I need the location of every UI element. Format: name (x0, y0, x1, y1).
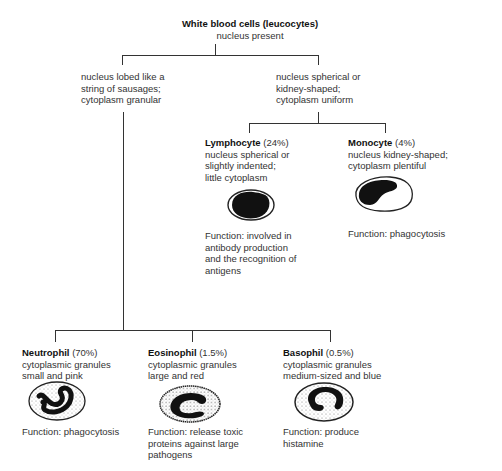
monocyte-name: Monocyte (348, 137, 392, 148)
neutrophil-function-line: Function: phagocytosis (22, 426, 119, 438)
connector-granular-bar (55, 330, 331, 331)
root-title: White blood cells (leucocytes) (182, 18, 318, 29)
neutrophil-percent: (70%) (72, 347, 97, 358)
eosinophil-desc: large and red (148, 370, 237, 382)
lymphocyte-function-line: antigens (205, 265, 296, 277)
root-node: White blood cells (leucocytes) nucleus p… (150, 18, 350, 41)
connector-root-bar (122, 55, 319, 56)
branch-uniform-line: cytoplasm uniform (276, 94, 361, 106)
neutrophil-node: Neutrophil (70%) cytoplasmic granules sm… (22, 347, 111, 382)
cell-round-nucleus-icon (226, 188, 276, 222)
monocyte-desc: cytoplasm plentiful (348, 160, 448, 172)
basophil-function-line: histamine (283, 438, 359, 450)
lymphocyte-function: Function: involved in antibody productio… (205, 230, 296, 276)
monocyte-percent: (4%) (395, 137, 415, 148)
branch-granular-line: string of sausages; (81, 83, 164, 95)
branch-granular: nucleus lobed like a string of sausages;… (81, 71, 164, 106)
lymphocyte-percent: (24%) (263, 137, 288, 148)
basophil-function-line: Function: produce (283, 426, 359, 438)
lymphocyte-function-line: Function: involved in (205, 230, 296, 242)
connector-eosinophil-drop (192, 330, 193, 342)
connector-lymphocyte-drop (249, 123, 250, 133)
connector-basophil-drop (330, 330, 331, 342)
connector-uniform-bar (249, 123, 386, 124)
basophil-desc: medium-sized and blue (283, 370, 381, 382)
basophil-desc: cytoplasmic granules (283, 359, 381, 371)
cell-lobed-nucleus-icon (27, 380, 87, 422)
connector-left-drop (122, 55, 123, 65)
lymphocyte-desc: slightly indented; (205, 160, 290, 172)
eosinophil-percent: (1.5%) (199, 347, 227, 358)
lymphocyte-name: Lymphocyte (205, 137, 261, 148)
eosinophil-function-line: pathogens (148, 449, 243, 461)
basophil-percent: (0.5%) (326, 347, 354, 358)
connector-neutrophil-drop (55, 330, 56, 342)
root-subtitle: nucleus present (150, 30, 350, 42)
lymphocyte-function-line: antibody production (205, 242, 296, 254)
lymphocyte-desc: little cytoplasm (205, 172, 290, 184)
branch-uniform-line: kidney-shaped; (276, 83, 361, 95)
branch-granular-line: cytoplasm granular (81, 94, 164, 106)
monocyte-node: Monocyte (4%) nucleus kidney-shaped; cyt… (348, 137, 448, 172)
neutrophil-name: Neutrophil (22, 347, 70, 358)
connector-right-drop (318, 55, 319, 65)
monocyte-desc: nucleus kidney-shaped; (348, 149, 448, 161)
eosinophil-function-line: proteins against large (148, 438, 243, 450)
lymphocyte-function-line: and the recognition of (205, 253, 296, 265)
cell-s-nucleus-icon (293, 381, 355, 423)
basophil-name: Basophil (283, 347, 323, 358)
neutrophil-desc: cytoplasmic granules (22, 359, 111, 371)
branch-granular-line: nucleus lobed like a (81, 71, 164, 83)
eosinophil-function: Function: release toxic proteins against… (148, 426, 243, 461)
basophil-node: Basophil (0.5%) cytoplasmic granules med… (283, 347, 381, 382)
eosinophil-node: Eosinophil (1.5%) cytoplasmic granules l… (148, 347, 237, 382)
eosinophil-desc: cytoplasmic granules (148, 359, 237, 371)
monocyte-function-line: Function: phagocytosis (348, 228, 445, 240)
connector-monocyte-drop (385, 123, 386, 133)
eosinophil-function-line: Function: release toxic (148, 426, 243, 438)
connector-root-stem (215, 44, 216, 55)
monocyte-function: Function: phagocytosis (348, 228, 445, 240)
neutrophil-function: Function: phagocytosis (22, 426, 119, 438)
connector-uniform-stem (318, 112, 319, 123)
branch-uniform: nucleus spherical or kidney-shaped; cyto… (276, 71, 361, 106)
cell-kidney-nucleus-icon (352, 174, 416, 214)
basophil-function: Function: produce histamine (283, 426, 359, 449)
cell-bilobed-nucleus-icon (158, 384, 222, 424)
connector-granular-stem (123, 112, 124, 330)
branch-uniform-line: nucleus spherical or (276, 71, 361, 83)
lymphocyte-node: Lymphocyte (24%) nucleus spherical or sl… (205, 137, 290, 183)
lymphocyte-desc: nucleus spherical or (205, 149, 290, 161)
eosinophil-name: Eosinophil (148, 347, 197, 358)
